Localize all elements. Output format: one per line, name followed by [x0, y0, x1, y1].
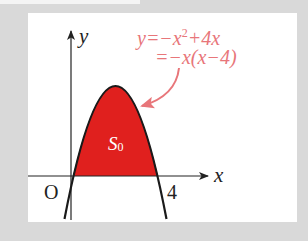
tick-label-4: 4: [167, 181, 177, 203]
x-axis-label: x: [213, 163, 224, 187]
annotation-arrow: [142, 68, 179, 106]
region-label-main: S: [108, 133, 118, 154]
region-label-subscript: 0: [118, 140, 124, 154]
origin-label: O: [44, 181, 58, 203]
y-axis-label: y: [77, 24, 89, 48]
parabola-diagram: y x O 4 S0 y=−x2+4x =−x(x−4): [0, 0, 308, 241]
equation-line-2: =−x(x−4): [155, 46, 237, 69]
